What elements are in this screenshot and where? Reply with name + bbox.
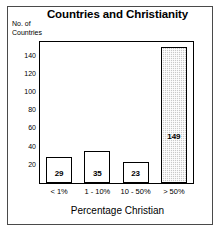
y-axis-label-line2: Countries: [12, 29, 42, 38]
bar-value-label: 35: [85, 169, 109, 178]
y-axis-tick-label: 100: [24, 88, 36, 95]
bar: 23: [123, 162, 149, 183]
x-axis-tick-label: 1 - 10%: [84, 187, 110, 196]
y-axis-tick-labels: 20406080100120140: [16, 41, 36, 183]
bar: 35: [84, 151, 110, 183]
x-axis-tick-label: < 1%: [50, 187, 67, 196]
chart-title: Countries and Christianity: [30, 8, 205, 21]
x-axis-tick-labels: < 1%1 - 10%10 - 50%> 50%: [40, 187, 193, 199]
y-axis-label-line1: No. of: [12, 20, 42, 29]
bar: 149: [161, 47, 187, 183]
y-axis-tick-label: 20: [28, 160, 36, 167]
x-axis-tick-label: > 50%: [163, 187, 184, 196]
bar-value-label: 149: [162, 132, 186, 141]
y-axis-tick-label: 40: [28, 142, 36, 149]
y-axis-tick-label: 80: [28, 106, 36, 113]
x-axis-tick-label: 10 - 50%: [121, 187, 151, 196]
bar: 29: [46, 157, 72, 183]
y-axis-tick-label: 140: [24, 51, 36, 58]
y-axis-tick-label: 120: [24, 69, 36, 76]
bar-series: 293523149: [40, 42, 193, 183]
bar-value-label: 23: [124, 169, 148, 178]
chart-figure: Countries and Christianity No. of Countr…: [0, 0, 221, 233]
x-axis-label: Percentage Christian: [30, 205, 205, 217]
y-axis-label: No. of Countries: [12, 20, 42, 37]
y-axis-tick-label: 60: [28, 124, 36, 131]
bar-value-label: 29: [47, 169, 71, 178]
